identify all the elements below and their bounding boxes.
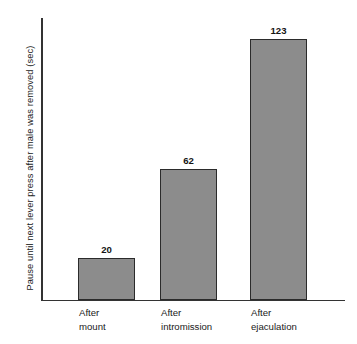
bar-value-label: 123 [250, 25, 307, 36]
bar-group-after-intromission: 62 [160, 18, 217, 300]
x-category-line2: ejaculation [251, 320, 357, 334]
y-axis-title: Pause until next lever press after male … [22, 18, 38, 318]
bar-after-mount[interactable] [78, 258, 135, 300]
bar-after-ejaculation[interactable] [250, 39, 307, 300]
bar-chart-figure: Pause until next lever press after male … [0, 0, 357, 344]
bar-value-label: 62 [160, 155, 217, 166]
bar-after-intromission[interactable] [160, 169, 217, 300]
x-category-label-after-ejaculation: After ejaculation [251, 306, 357, 333]
bar-group-after-mount: 20 [78, 18, 135, 300]
bar-value-label: 20 [78, 244, 135, 255]
bar-group-after-ejaculation: 123 [250, 18, 307, 300]
x-category-line1: After [161, 307, 181, 318]
x-category-line1: After [79, 307, 99, 318]
plot-area: 20 62 123 [41, 18, 345, 300]
x-category-line1: After [251, 307, 271, 318]
